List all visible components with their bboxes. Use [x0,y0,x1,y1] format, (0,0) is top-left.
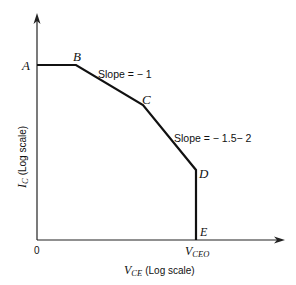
y-axis-label: IC(Log scale) [15,126,30,189]
point-label-b: B [73,49,81,64]
point-label-a: A [21,58,30,73]
diagram-canvas: A B C D E Slope = − 1 Slope = − 1.5− 2 0… [0,0,296,285]
x-axis-label-sub: CE [131,268,143,278]
origin-label: 0 [34,245,40,256]
vceo-tick-label: VCEO [185,244,209,259]
slope-annotation-bc: Slope = − 1 [98,68,152,80]
point-label-d: D [198,166,209,181]
x-axis-label: VCE(Log scale) [124,263,195,278]
y-axis-label-suffix: (Log scale) [17,126,28,175]
x-axis-label-suffix: (Log scale) [145,265,194,276]
y-axis-label-sub: C [20,178,30,184]
characteristic-curve [37,65,196,240]
vceo-sub: CEO [192,249,209,259]
point-label-e: E [199,225,208,239]
y-axis-label-group: IC(Log scale) [15,126,30,189]
slope-annotation-cd: Slope = − 1.5− 2 [174,132,252,144]
point-label-c: C [142,92,151,107]
